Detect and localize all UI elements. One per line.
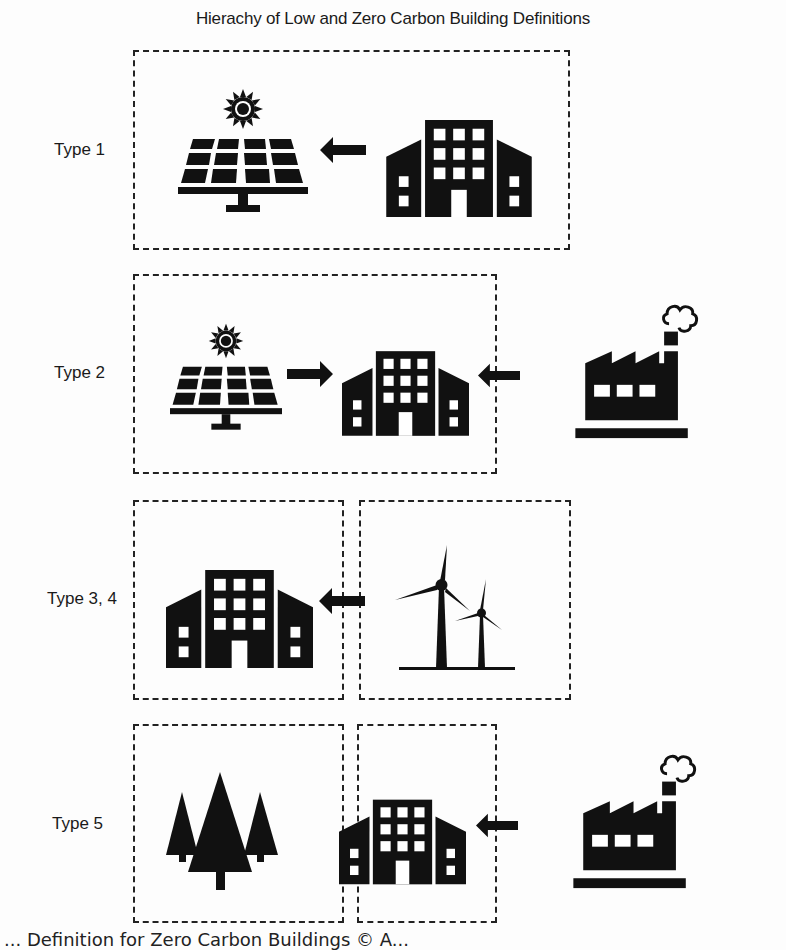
solar-panel-icon: [170, 313, 282, 443]
factory-icon: [525, 752, 745, 895]
diagram-title: Hierachy of Low and Zero Carbon Building…: [0, 9, 786, 29]
arrow-left-icon: [478, 363, 520, 388]
building-icon: [384, 120, 534, 217]
arrow-left-icon: [476, 813, 518, 838]
type-5-label: Type 5: [52, 814, 103, 834]
type-1-label: Type 1: [54, 140, 105, 160]
trees-icon: [162, 772, 282, 892]
type-3-4-label: Type 3, 4: [47, 589, 117, 609]
building-icon: [162, 570, 317, 668]
type-2-label: Type 2: [54, 363, 105, 383]
wind-turbines-icon: [395, 545, 520, 675]
arrow-left-icon: [320, 137, 366, 163]
factory-icon: [527, 302, 747, 445]
figure-caption: ... Definition for Zero Carbon Buildings…: [4, 929, 409, 950]
building-icon: [339, 793, 466, 891]
solar-panel-icon: [178, 87, 308, 217]
arrow-left-icon: [318, 588, 366, 614]
arrow-right-icon: [287, 361, 333, 387]
building-icon: [342, 345, 469, 442]
